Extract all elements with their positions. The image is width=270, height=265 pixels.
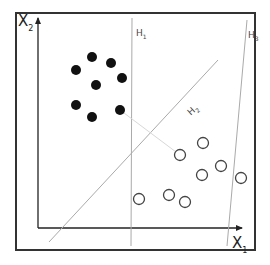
y-axis-label: X2 — [18, 13, 33, 29]
open-data-point — [216, 161, 227, 172]
outer-frame — [16, 13, 255, 250]
open-data-point — [180, 197, 191, 208]
hyperplane-h3 — [227, 20, 247, 246]
hyperplane-h1 — [131, 18, 132, 246]
filled-data-point — [71, 100, 81, 110]
hyperplane-h2 — [49, 60, 218, 242]
h1-label: H1 — [136, 23, 147, 39]
open-data-point — [198, 138, 209, 149]
svm-hyperplane-diagram — [0, 0, 270, 265]
open-data-point — [236, 173, 247, 184]
filled-data-point — [71, 65, 81, 75]
open-data-point — [164, 190, 175, 201]
filled-data-point — [106, 58, 116, 68]
open-data-point — [197, 170, 208, 181]
open-data-point — [175, 150, 186, 161]
filled-data-point — [91, 80, 101, 90]
filled-data-point — [117, 73, 127, 83]
filled-data-point — [115, 105, 125, 115]
filled-data-point — [87, 52, 97, 62]
filled-data-point — [87, 112, 97, 122]
open-data-point — [134, 194, 145, 205]
x-axis-label: X1 — [232, 235, 247, 251]
margin-line — [120, 110, 180, 155]
h3-label: H3 — [248, 25, 259, 41]
